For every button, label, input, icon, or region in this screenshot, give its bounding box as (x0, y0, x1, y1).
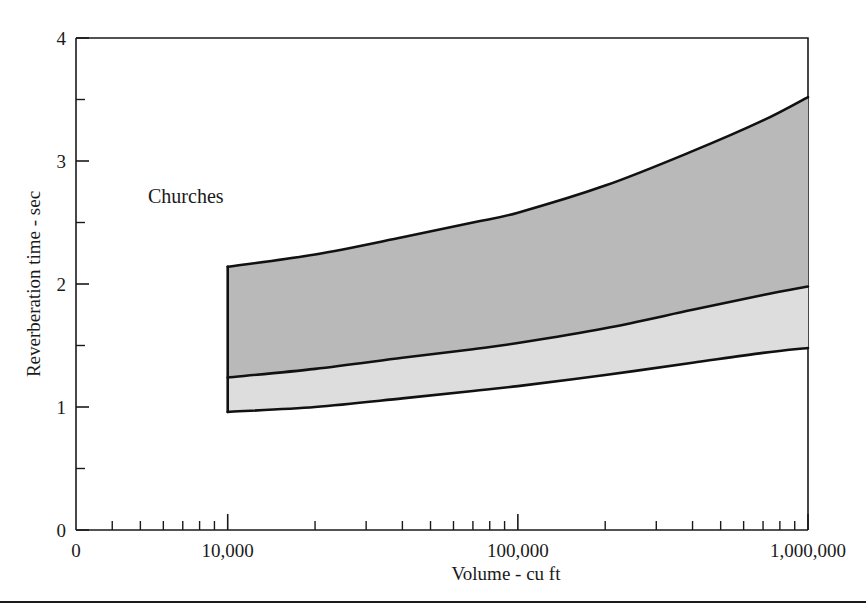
y-tick-label: 4 (57, 28, 67, 49)
churches-annotation: Churches (148, 185, 224, 207)
x-tick-label: 10,000 (202, 540, 254, 561)
y-tick-label: 1 (57, 397, 67, 418)
y-tick-label: 0 (57, 520, 67, 541)
x-tick-label: 0 (71, 540, 81, 561)
reverberation-time-chart: 01234 010,000100,0001,000,000 Reverberat… (0, 0, 866, 611)
y-tick-label: 2 (57, 274, 67, 295)
footer-rule (0, 601, 866, 603)
x-tick-label: 100,000 (487, 540, 549, 561)
y-tick-label: 3 (57, 151, 67, 172)
y-axis-title: Reverberation time - sec (23, 191, 44, 377)
x-axis-title: Volume - cu ft (452, 563, 562, 584)
x-tick-label: 1,000,000 (770, 540, 846, 561)
